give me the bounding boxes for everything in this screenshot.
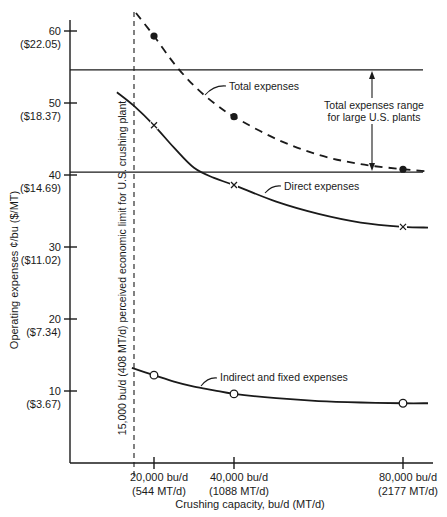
x-tick-sublabel: (1088 MT/d) [209,485,269,497]
y-tick-label: 20 [49,313,61,325]
y-tick-label: 40 [49,169,61,181]
x-tick-label: 40,000 bu/d [210,471,268,483]
y-tick-sublabel: ($11.02) [21,254,61,266]
total-expenses-point [399,166,406,173]
x-tick-label: 80,000 bu/d [379,471,437,483]
total-expenses-point [230,113,237,120]
annotation-indirect-text: Indirect and fixed expenses [220,371,348,383]
y-tick-sublabel: ($18.37) [20,110,61,122]
range-arrow-down-icon [369,163,375,171]
range-arrow-up-icon [369,71,375,79]
annotation-total-text: Total expenses [229,80,299,92]
series-group [117,13,428,403]
x-tick-sublabel: (544 MT/d) [132,485,186,497]
operating-expenses-chart: 60($22.05)50($18.37)40($14.69)30($11.02)… [0,0,447,517]
annotation-range-line2: for large U.S. plants [328,111,421,123]
annotation-direct-expenses: Direct expenses [265,180,359,193]
annotation-total-expenses: Total expenses [205,80,299,95]
y-axis-label: Operating expenses ¢/bu ($/MT) [8,191,20,349]
annotation-range: Total expenses range for large U.S. plan… [324,71,424,171]
y-tick-sublabel: ($3.67) [26,398,61,410]
total-expenses-line [136,13,428,171]
y-tick-label: 60 [49,25,61,37]
x-axis-label: Crushing capacity, bu/d (MT/d) [175,498,325,510]
annotation-direct-text: Direct expenses [284,180,359,192]
y-tick-group: 60($22.05)50($18.37)40($14.69)30($11.02)… [20,25,77,410]
limit-line-label: 15,000 bu/d (408 MT/d) perceived economi… [116,101,128,435]
total-expenses-point [150,32,157,39]
annotation-leader-indirect [201,378,217,386]
indirect-and-fixed-expenses-point [150,371,158,379]
y-tick-sublabel: ($7.34) [26,326,61,338]
y-tick-label: 50 [49,97,61,109]
y-tick-sublabel: ($14.69) [20,182,61,194]
annotation-indirect-expenses: Indirect and fixed expenses [201,371,348,386]
x-tick-label: 20,000 bu/d [130,471,188,483]
annotation-range-line1: Total expenses range [324,99,424,111]
direct-expenses-point [230,181,238,189]
indirect-and-fixed-expenses-point [230,390,238,398]
annotation-leader-direct [265,186,281,193]
direct-expenses-point [150,121,158,129]
y-tick-label: 30 [49,241,61,253]
annotation-leader-total [205,86,226,95]
x-tick-sublabel: (2177 MT/d) [378,485,438,497]
y-tick-sublabel: ($22.05) [20,38,61,50]
y-tick-label: 10 [49,385,61,397]
direct-expenses-point [399,223,407,231]
indirect-and-fixed-expenses-point [399,399,407,407]
